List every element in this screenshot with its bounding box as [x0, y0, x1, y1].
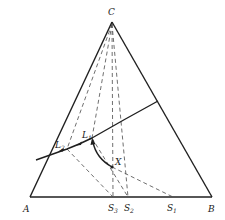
crystallization-path [93, 142, 112, 167]
tie-line-l1-s2 [92, 138, 128, 197]
vertex-label-a: A [22, 204, 30, 214]
svg-text:1: 1 [88, 134, 92, 141]
tie-lines-to-base [67, 138, 173, 197]
point-label-s2: S 2 [124, 203, 134, 214]
vertex-label-b: B [207, 204, 215, 214]
edge-cb [112, 22, 212, 197]
edge-ca [30, 22, 112, 197]
svg-text:3: 3 [114, 207, 118, 214]
point-label-x: X [114, 157, 122, 167]
svg-text:2: 2 [60, 144, 65, 151]
svg-text:2: 2 [129, 207, 134, 214]
ternary-diagram: C A B X L 1 L 2 S 3 S 2 S 1 [0, 0, 225, 220]
point-label-l2: L 2 [54, 140, 65, 151]
svg-text:L: L [54, 140, 61, 150]
tie-lines-from-c [67, 24, 128, 197]
svg-text:1: 1 [173, 207, 177, 214]
point-label-l1: L 1 [81, 130, 92, 141]
point-label-s3: S 3 [108, 203, 118, 214]
tie-line-x-s1 [112, 167, 173, 197]
point-x-marker [111, 166, 114, 169]
tie-line-c-l1 [92, 24, 112, 138]
triangle-outline [30, 22, 212, 197]
vertex-label-c: C [108, 7, 115, 17]
svg-text:L: L [81, 130, 88, 140]
tie-line-l2-s3 [67, 149, 113, 197]
point-label-s1: S 1 [167, 203, 177, 214]
